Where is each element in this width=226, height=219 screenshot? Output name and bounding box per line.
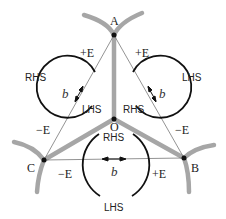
left-loop-b-vector: b⃗	[62, 86, 79, 101]
left-loop-rhs: RHS	[25, 72, 46, 83]
bottom-loop-b-vector: b⃗	[111, 164, 128, 179]
bottom-loop-lhs: LHS	[104, 202, 124, 213]
right-loop-minus-E: −E	[175, 123, 189, 137]
boundary-OB	[114, 119, 184, 158]
right-loop-lhs: LHS	[182, 72, 202, 83]
loop-bottom-left	[83, 134, 100, 196]
left-loop-plus-E: +E	[80, 46, 94, 60]
node-B	[182, 156, 187, 161]
right-loop-b-vector: b⃗	[159, 86, 176, 101]
label-C: C	[27, 161, 35, 175]
node-C	[42, 158, 47, 163]
right-loop-plus-E: +E	[135, 46, 149, 60]
node-A	[112, 33, 117, 38]
bottom-loop-rhs: RHS	[103, 132, 124, 143]
label-A: A	[110, 14, 119, 28]
bottom-loop-plus-E: +E	[152, 167, 166, 181]
bottom-loop-minus-E: −E	[58, 167, 72, 181]
label-B: B	[191, 161, 199, 175]
burgers-vector-bottom	[102, 157, 126, 161]
left-loop-minus-E: −E	[36, 123, 50, 137]
left-loop-lhs: LHS	[82, 104, 102, 115]
dislocation-triangle-diagram: A O C B +E −E RHS LHS b⃗ +E −E LHS RHS b…	[0, 0, 226, 219]
loop-bottom-right	[132, 134, 149, 196]
burgers-vector-right	[148, 86, 156, 102]
right-loop-rhs: RHS	[123, 104, 144, 115]
